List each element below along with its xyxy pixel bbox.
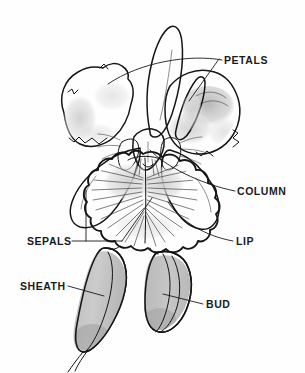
label-bud: BUD xyxy=(206,298,230,310)
label-sheath: SHEATH xyxy=(20,280,66,292)
orchid-diagram: PETALS COLUMN SEPALS LIP SHEATH BUD xyxy=(0,0,305,373)
orchid-illustration: PETALS COLUMN SEPALS LIP SHEATH BUD xyxy=(0,0,305,373)
label-sepals: SEPALS xyxy=(27,235,72,247)
label-lip: LIP xyxy=(236,235,254,247)
label-column: COLUMN xyxy=(237,185,286,197)
label-petals: PETALS xyxy=(224,54,268,66)
